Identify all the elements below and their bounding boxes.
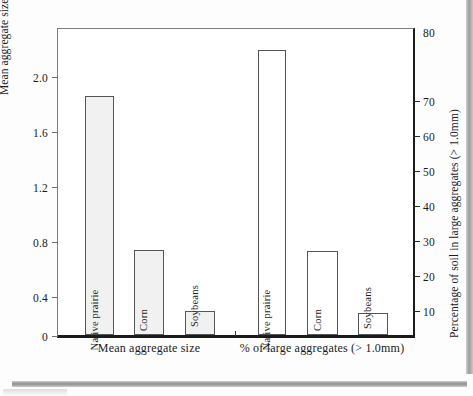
group-label-mean-aggregate-size: Mean aggregate size	[98, 341, 200, 356]
right-tick-20	[413, 276, 420, 277]
page-edge-smudge	[3, 389, 67, 396]
bar-pct-soybeans: Soybeans	[358, 313, 388, 335]
bar-label-soybeans-right: Soybeans	[362, 287, 373, 329]
x-axis-group-labels: Mean aggregate size % of large aggregate…	[57, 341, 415, 361]
left-tick-0-8	[52, 242, 58, 243]
right-axis-title: Percentage of soil in large aggregates (…	[448, 109, 460, 338]
plot-area: Native prairie Corn Soybeans Native prai…	[58, 29, 413, 335]
page-edge-right	[466, 0, 473, 374]
chart-frame: Native prairie Corn Soybeans Native prai…	[57, 28, 415, 338]
left-tick-2-0	[52, 77, 58, 78]
right-tick-40	[413, 206, 420, 207]
left-tick-label-0: 0	[42, 331, 48, 343]
right-tick-label-60: 60	[423, 131, 435, 143]
bar-label-soybeans-left: Soybeans	[189, 285, 200, 327]
bar-pct-native-prairie: Native prairie	[258, 50, 286, 335]
bar-pct-corn: Corn	[307, 251, 338, 335]
right-tick-label-10: 10	[423, 306, 435, 318]
left-axis-tick-labels: 0 0.4 0.8 1.2 1.6 2.0	[0, 28, 57, 338]
right-tick-label-80: 80	[423, 27, 435, 39]
group-separator-tick	[235, 331, 236, 336]
right-tick-label-50: 50	[423, 166, 435, 178]
right-tick-30	[413, 241, 420, 242]
bar-label-corn-right: Corn	[312, 309, 323, 331]
right-tick-50	[413, 171, 420, 172]
left-tick-label-1-2: 1.2	[33, 182, 48, 194]
left-tick-0-4	[52, 297, 58, 298]
left-tick-1-2	[52, 187, 58, 188]
bar-mean-soybeans: Soybeans	[185, 311, 215, 335]
figure-page: Mean aggregate size (mm) 0 0.4 0.8 1.2 1…	[0, 0, 473, 396]
right-tick-60	[413, 136, 420, 137]
right-tick-10	[413, 311, 420, 312]
group-label-percent-large-aggregates: % of large aggregates (> 1.0mm)	[240, 341, 405, 356]
page-edge-bottom-rule	[12, 381, 467, 387]
bar-mean-native-prairie: Native prairie	[85, 96, 114, 335]
right-tick-70	[413, 101, 420, 102]
left-tick-1-6	[52, 132, 58, 133]
left-tick-0	[52, 336, 58, 337]
right-tick-label-70: 70	[423, 96, 435, 108]
left-tick-label-0-4: 0.4	[33, 292, 48, 304]
bar-label-corn-left: Corn	[138, 309, 149, 331]
left-tick-label-0-8: 0.8	[33, 237, 48, 249]
bar-mean-corn: Corn	[134, 250, 164, 335]
left-tick-label-1-6: 1.6	[33, 127, 48, 139]
right-tick-label-20: 20	[423, 271, 435, 283]
right-tick-label-40: 40	[423, 201, 435, 213]
right-tick-label-30: 30	[423, 236, 435, 248]
left-tick-label-2-0: 2.0	[33, 72, 48, 84]
